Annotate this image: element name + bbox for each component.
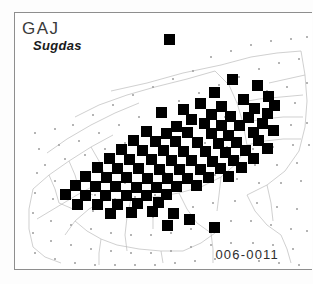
occurrence-marker [234,120,245,131]
occurrence-marker [238,94,249,105]
occurrence-marker [186,114,197,125]
occurrence-marker [223,171,234,182]
occurrence-marker [156,107,167,118]
occurrence-marker [203,172,214,183]
occurrence-marker [105,208,116,219]
occurrence-marker [147,206,158,217]
sheet-code-label: 006-0011 [215,247,279,262]
occurrence-marker [195,98,206,109]
occurrence-marker [92,199,103,210]
occurrence-marker [171,121,182,132]
occurrence-marker [162,220,173,231]
map-frame-border [14,12,312,270]
occurrence-marker [227,74,238,85]
map-plate [15,13,312,269]
occurrence-marker [236,162,247,173]
basemap-layer [15,13,312,269]
occurrence-marker [126,207,137,218]
occurrence-marker [209,87,220,98]
occurrence-marker [252,80,263,91]
occurrence-marker [60,189,71,200]
occurrence-marker [268,125,279,136]
distribution-map-figure: GAJ Sugdas 006-0011 [0,0,313,284]
occurrence-marker [171,181,182,192]
occurrence-marker [168,208,179,219]
occurrence-marker [191,180,202,191]
occurrence-marker [209,222,220,233]
occurrence-marker [248,153,259,164]
occurrence-marker [262,143,273,154]
occurrence-marker [184,214,195,225]
occurrence-marker [110,181,121,192]
occurrence-marker [72,199,83,210]
occurrence-marker [164,34,175,45]
